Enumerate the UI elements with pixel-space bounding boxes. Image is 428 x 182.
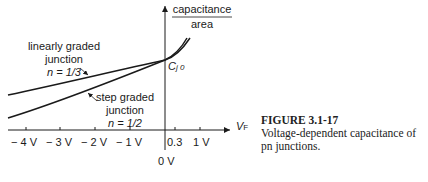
figure-number: FIGURE 3.1-17 xyxy=(261,114,426,127)
tick-label-1: 1 V xyxy=(193,136,210,149)
linear-label-n: n = 1/3 xyxy=(14,66,114,79)
y-axis-label-top: capacitance xyxy=(170,3,234,16)
tick-label-0-3: 0.3 xyxy=(167,136,182,149)
figure-caption: FIGURE 3.1-17 Voltage-dependent capacita… xyxy=(261,114,426,153)
tick-label-neg2: − 2 V xyxy=(81,136,107,149)
linear-label-2: junction xyxy=(14,53,114,66)
tick-label-neg1: − 1 V xyxy=(116,136,142,149)
figure-caption-text: Voltage-dependent capacitance of pn junc… xyxy=(261,127,426,153)
x-axis-label: VF xyxy=(236,120,248,134)
c-j0-label: Cj 0 xyxy=(168,60,184,74)
tick-label-neg3: − 3 V xyxy=(46,136,72,149)
y-axis-label-bottom: area xyxy=(170,18,234,31)
step-label-n: n = 1/2 xyxy=(90,117,160,130)
step-label-1: step graded xyxy=(90,91,160,104)
origin-label: 0 V xyxy=(158,155,175,168)
tick-label-neg4: − 4 V xyxy=(11,136,37,149)
linear-label-1: linearly graded xyxy=(14,40,114,53)
step-label-2: junction xyxy=(90,104,160,117)
